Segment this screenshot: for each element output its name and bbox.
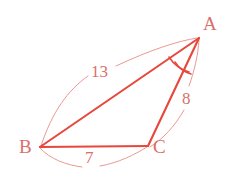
triangle-sides xyxy=(40,38,199,147)
side-length-label-ac: 8 xyxy=(182,90,191,107)
side-length-label-ab: 13 xyxy=(91,63,108,80)
side-length-label-bc: 7 xyxy=(85,149,94,166)
triangle-diagram-svg xyxy=(0,0,234,175)
measure-arc-ab-right xyxy=(116,38,197,66)
vertex-label-a: A xyxy=(203,14,217,33)
side-ab xyxy=(40,38,199,147)
side-ac xyxy=(148,38,199,146)
side-bc xyxy=(40,146,148,147)
geometry-figure: A B C 13 8 7 xyxy=(0,0,234,175)
measure-arc-bc-left xyxy=(40,148,82,167)
vertex-label-b: B xyxy=(19,137,32,156)
measure-arc-bc-right xyxy=(100,147,147,166)
measure-arc-ab-left xyxy=(41,76,88,146)
vertex-label-c: C xyxy=(153,137,166,156)
